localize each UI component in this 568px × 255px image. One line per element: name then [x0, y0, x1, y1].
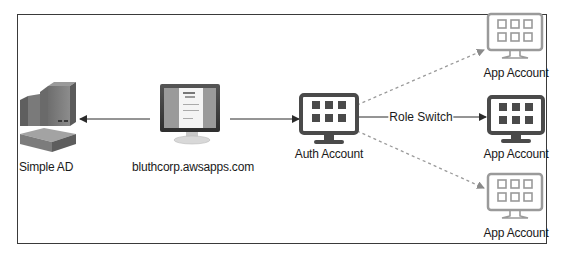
- app-account-2-monitor-icon: [489, 97, 543, 143]
- auth-account-monitor-icon: [301, 95, 357, 144]
- app-account-1-label: App Account: [483, 66, 548, 80]
- app-account-1-monitor-icon: [488, 14, 542, 58]
- app-account-3-monitor-icon: [488, 174, 542, 218]
- diagram-canvas: [0, 0, 568, 255]
- auth-account-label: Auth Account: [295, 147, 363, 161]
- directory-service-icon: [20, 82, 76, 152]
- edge-auth-to-app1-dashed: [357, 50, 484, 105]
- login-monitor-icon: [160, 84, 220, 144]
- app-account-3-label: App Account: [483, 226, 548, 240]
- edge-auth-to-app3-dashed: [357, 131, 484, 188]
- role-switch-edge-label: Role Switch: [388, 110, 453, 124]
- portal-label: bluthcorp.awsapps.com: [132, 160, 254, 174]
- simple-ad-label: Simple AD: [19, 160, 73, 174]
- app-account-2-label: App Account: [483, 147, 548, 161]
